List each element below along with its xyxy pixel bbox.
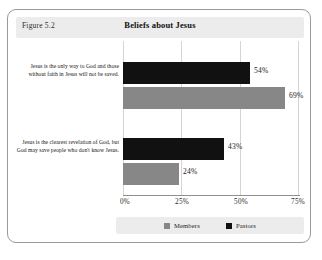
legend: Members Pastors	[116, 217, 304, 234]
bar-value-members-1: 24%	[183, 167, 197, 176]
legend-label-members: Members	[174, 222, 200, 229]
tick-label-2: 50%	[234, 198, 248, 206]
legend-label-pastors: Pastors	[236, 222, 256, 229]
chart-title: Beliefs about Jesus	[8, 20, 311, 30]
category-label-0: Jesus is the only way to God and those w…	[15, 63, 119, 78]
bar-members-1[interactable]	[123, 163, 179, 185]
tick-label-1: 25%	[175, 198, 189, 206]
bar-members-0[interactable]	[123, 87, 285, 109]
bar-value-members-0: 69%	[289, 91, 303, 100]
legend-swatch-pastors-icon	[226, 223, 232, 229]
tick-label-3: 75%	[291, 198, 305, 206]
x-axis-tick-labels: 0% 25% 50% 75%	[123, 198, 300, 210]
bar-value-pastors-0: 54%	[254, 66, 268, 75]
bar-pastors-1[interactable]	[123, 138, 224, 160]
bar-value-pastors-1: 43%	[228, 142, 242, 151]
gridline-75pct	[298, 41, 299, 195]
plot-area: 54% 69% 43% 24%	[123, 41, 299, 195]
category-label-group: Jesus is the only way to God and those w…	[13, 41, 119, 195]
bar-pastors-0[interactable]	[123, 62, 250, 84]
tick-label-0: 0%	[120, 198, 130, 206]
legend-swatch-members-icon	[164, 223, 170, 229]
figure-card: Figure 5.2 Beliefs about Jesus Jesus is …	[7, 9, 311, 243]
legend-item-members[interactable]: Members	[164, 222, 200, 229]
axis-baseline	[123, 195, 300, 196]
legend-item-pastors[interactable]: Pastors	[226, 222, 256, 229]
category-label-1: Jesus is the clearest revelation of God,…	[15, 139, 119, 154]
